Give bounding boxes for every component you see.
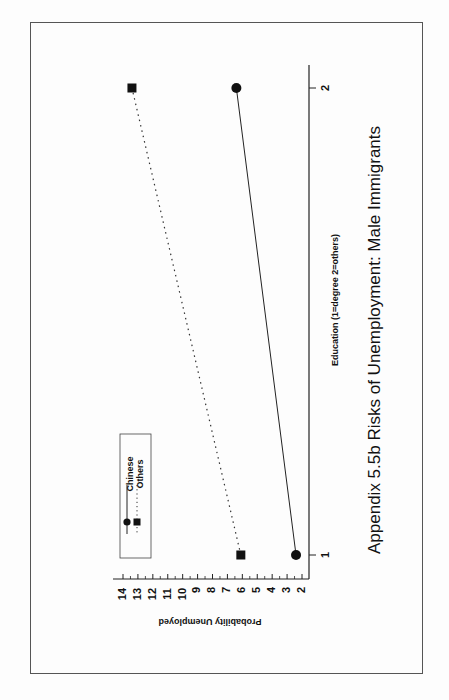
page: 1 2 Education (1=degree 2=others) 234567… bbox=[0, 0, 449, 700]
x-axis: 1 2 Education (1=degree 2=others) bbox=[309, 65, 340, 579]
y-tick-label: 11 bbox=[161, 588, 173, 600]
y-tick-label: 12 bbox=[146, 588, 158, 600]
legend-label-others: Others bbox=[135, 459, 145, 488]
y-tick-label: 2 bbox=[295, 587, 307, 593]
y-axis: 234567891011121314 Probability Unemploye… bbox=[113, 574, 309, 627]
x-tick-label: 1 bbox=[319, 552, 331, 558]
y-axis-label: Probability Unemployed bbox=[158, 617, 261, 627]
data-point-others bbox=[127, 84, 136, 93]
y-tick-label: 8 bbox=[205, 587, 217, 593]
legend-label-chinese: Chinese bbox=[125, 456, 135, 491]
y-tick-label: 6 bbox=[235, 587, 247, 593]
series-line-chinese bbox=[236, 88, 296, 555]
y-tick-label: 10 bbox=[176, 588, 188, 600]
x-tick-label: 2 bbox=[319, 85, 331, 91]
plot-area bbox=[127, 83, 301, 560]
y-tick-label: 9 bbox=[190, 587, 202, 593]
y-tick-label: 5 bbox=[250, 587, 262, 593]
data-point-chinese bbox=[231, 83, 241, 93]
series-line-others bbox=[132, 88, 241, 555]
data-point-chinese bbox=[291, 550, 301, 560]
legend-marker-square-icon bbox=[134, 519, 141, 526]
y-tick-label: 3 bbox=[280, 587, 292, 593]
x-axis-label: Education (1=degree 2=others) bbox=[330, 234, 340, 366]
legend-marker-circle-icon bbox=[123, 518, 130, 525]
data-point-others bbox=[236, 551, 245, 560]
chart-title: Appendix 5.5b Risks of Unemployment: Mal… bbox=[365, 126, 384, 554]
y-tick-label: 4 bbox=[265, 586, 277, 593]
chart: 1 2 Education (1=degree 2=others) 234567… bbox=[0, 0, 449, 700]
legend: Chinese Others bbox=[120, 434, 151, 558]
y-tick-label: 14 bbox=[116, 587, 128, 600]
y-tick-label: 13 bbox=[131, 588, 143, 600]
y-tick-label: 7 bbox=[220, 587, 232, 593]
